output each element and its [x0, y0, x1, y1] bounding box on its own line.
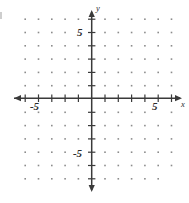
x-axis-tick-label-negative-5: -5 [30, 101, 39, 112]
coordinate-grid-figure: 5 -5 -5 5 x y [0, 0, 189, 203]
y-axis-name-label: y [96, 4, 100, 13]
grid-dot-lattice [24, 18, 172, 179]
coordinate-grid-canvas [0, 0, 189, 203]
x-axis-left-arrowhead [14, 95, 21, 101]
x-axis-name-label: x [181, 100, 185, 109]
y-axis-tick-label-positive-5: 5 [77, 27, 82, 38]
y-axis-tick-label-negative-5: -5 [73, 148, 82, 159]
x-axis-tick-label-positive-5: 5 [152, 101, 157, 112]
y-axis [88, 10, 95, 192]
y-axis-bottom-arrowhead [89, 185, 95, 192]
y-axis-top-arrowhead [89, 10, 95, 17]
